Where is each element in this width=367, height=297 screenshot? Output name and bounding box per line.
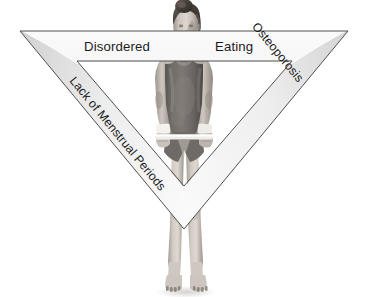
triad-labels: Disordered Eating Lack of Menstrual Peri…: [0, 0, 367, 297]
label-osteoporosis: Osteoporosis: [249, 20, 306, 85]
label-lack-of-menstrual-periods: Lack of Menstrual Periods: [67, 74, 169, 194]
diagram-canvas: Disordered Eating Lack of Menstrual Peri…: [0, 0, 367, 297]
label-eating: Eating: [215, 39, 253, 54]
label-disordered: Disordered: [84, 39, 150, 54]
